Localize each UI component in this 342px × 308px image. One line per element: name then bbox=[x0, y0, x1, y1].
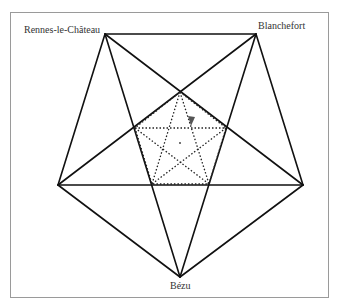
outer-star bbox=[58, 34, 303, 277]
edge-bottom-right bbox=[180, 185, 303, 277]
edge-top-left bbox=[58, 34, 105, 185]
diagonal-tl-bottom bbox=[105, 34, 180, 277]
diagonal-tl-right bbox=[105, 34, 303, 185]
center-point bbox=[179, 142, 181, 144]
label-blanchefort: Blanchefort bbox=[258, 21, 305, 31]
edge-bottom-left bbox=[58, 185, 180, 277]
inner-dotted-star bbox=[135, 92, 226, 184]
marker-triangle-icon bbox=[188, 116, 195, 126]
label-rennes-le-chateau: Rennes-le-Château bbox=[24, 25, 100, 35]
inner-diag-5 bbox=[152, 128, 226, 184]
inner-diag-1 bbox=[152, 92, 180, 184]
outer-pentagon bbox=[58, 34, 303, 277]
pentagram-diagram bbox=[0, 0, 342, 308]
diagonal-tr-bottom bbox=[180, 34, 256, 277]
inner-diag-4 bbox=[135, 128, 209, 184]
inner-pentagon bbox=[135, 92, 226, 184]
diagonal-tr-left bbox=[58, 34, 256, 185]
edge-top-right bbox=[256, 34, 303, 185]
inner-diag-2 bbox=[180, 92, 209, 184]
label-bezu: Bézu bbox=[170, 281, 191, 291]
